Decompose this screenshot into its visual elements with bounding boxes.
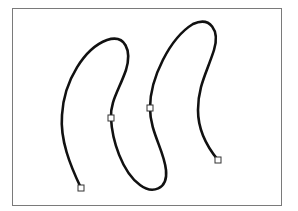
anchor-point-4[interactable] (215, 157, 221, 163)
bezier-canvas[interactable] (0, 0, 298, 211)
anchor-point-3[interactable] (147, 105, 153, 111)
anchor-point-2[interactable] (108, 115, 114, 121)
bezier-curve[interactable] (62, 22, 218, 190)
anchor-point-1[interactable] (78, 185, 84, 191)
